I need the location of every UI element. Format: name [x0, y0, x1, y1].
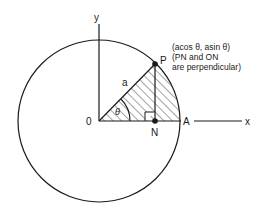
- point-p-dot: [152, 61, 158, 67]
- annotation-line-3: are perpendicular): [172, 62, 241, 72]
- origin-label: 0: [86, 116, 92, 127]
- angle-label: θ: [115, 107, 120, 117]
- y-axis-label: y: [94, 12, 99, 23]
- point-n-dot: [152, 118, 158, 124]
- annotation-line-1: (acos θ, asin θ): [172, 42, 230, 52]
- point-p-label: P: [160, 55, 167, 66]
- radius-label: a: [122, 77, 128, 88]
- point-a-label: A: [183, 116, 190, 127]
- annotation-line-2: (PN and ON: [172, 52, 218, 62]
- x-axis-label: x: [245, 116, 250, 127]
- hatched-sector: [99, 64, 180, 121]
- circle-sector-diagram: y x 0 A N P a θ (acos θ, asin θ) (PN and…: [0, 0, 265, 217]
- point-n-label: N: [151, 127, 158, 138]
